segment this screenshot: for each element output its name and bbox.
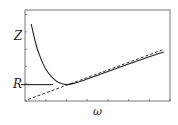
y-axis-label: Z: [14, 29, 22, 43]
impedance-chart: [0, 0, 178, 125]
r-level-label: R: [13, 77, 22, 91]
asymptote-dashed-line: [28, 49, 164, 99]
x-axis-label: ω: [93, 105, 102, 118]
impedance-curve: [31, 24, 164, 85]
